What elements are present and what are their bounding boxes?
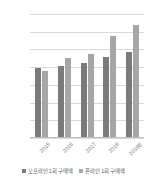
bar [35,68,41,138]
bar [126,52,132,138]
bar-group [103,14,116,138]
bar-chart: 05001,0001,5002,0002,5003,0003,500 20152… [0,0,147,182]
legend-item[interactable]: 오프라인 1회 구매액 [22,168,72,174]
bar-group [126,14,139,138]
legend-swatch-icon [22,169,26,173]
bar-group [35,14,48,138]
x-axis-line [30,137,144,138]
legend-label: 온라인 1회 구매액 [85,168,125,174]
bar [110,36,116,138]
bar [88,54,94,138]
legend-swatch-icon [79,169,83,173]
gridline [30,138,144,139]
bar [103,57,109,138]
bar [42,71,48,138]
legend-item[interactable]: 온라인 1회 구매액 [79,168,125,174]
plot-area [30,14,144,138]
bar [65,58,71,138]
bar-group [81,14,94,138]
bar [81,63,87,138]
legend-label: 오프라인 1회 구매액 [28,168,72,174]
bar [133,25,139,138]
bar [58,66,64,138]
chart-legend: 오프라인 1회 구매액온라인 1회 구매액 [0,168,147,174]
bar-group [58,14,71,138]
